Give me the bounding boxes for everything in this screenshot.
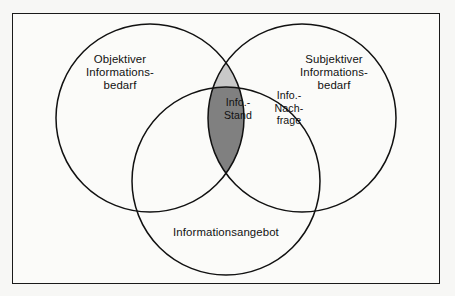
label-subjektiver-informationsbedarf: Subjektiver Informations- bedarf [272,53,396,92]
label-info-nachfrage: Info.- Nach- frage [265,89,313,127]
label-objektiver-informationsbedarf: Objektiver Informations- bedarf [58,53,182,92]
label-info-stand: Info.- Stand [211,96,265,121]
diagram-canvas: Objektiver Informations- bedarf Subjekti… [0,0,455,296]
label-informationsangebot: Informationsangebot [126,226,326,239]
